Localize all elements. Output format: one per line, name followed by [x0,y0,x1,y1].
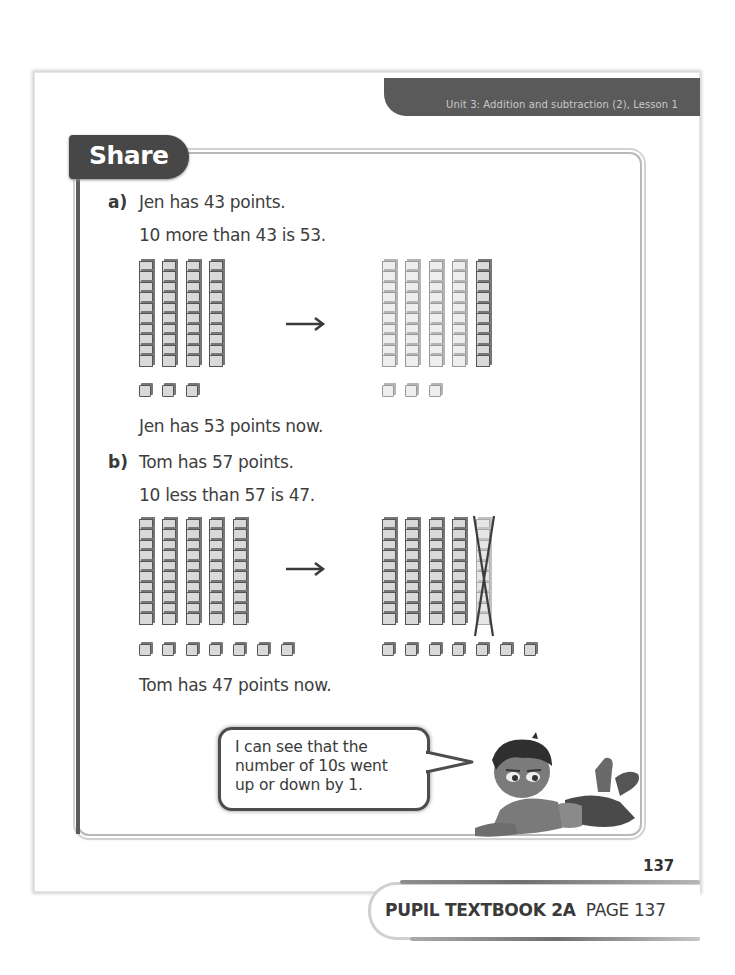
rod-cube [209,355,223,367]
ten-rod [139,520,153,625]
rod-cube [382,355,396,367]
part-a-line1: Jen has 43 points. [139,192,285,212]
one-cube [500,644,512,656]
rod-cube [186,613,200,625]
one-cube [382,644,394,656]
added-ten-rod [476,262,490,367]
ten-rod [209,520,223,625]
one-cube [382,385,394,397]
ten-rod [405,262,419,367]
speech-line-3: up or down by 1. [235,776,427,795]
part-a-label: a) [108,192,127,212]
one-cube [476,644,488,656]
right-arrow-icon [286,561,326,577]
ten-rod [186,262,200,367]
footer-book-title: PUPIL TEXTBOOK 2A [385,900,576,920]
ten-rod [429,520,443,625]
ten-rod [162,520,176,625]
part-b-line1: Tom has 57 points. [139,452,294,472]
rod-cube [162,613,176,625]
one-cube [139,385,151,397]
one-cube [162,385,174,397]
speech-bubble: I can see that the number of 10s went up… [218,727,430,811]
ten-rod [429,262,443,367]
rod-cube [452,355,466,367]
child-character-illustration [470,730,645,842]
rod-cube [452,613,466,625]
rod-cube [209,613,223,625]
one-cube [405,385,417,397]
rod-cube [405,355,419,367]
ten-rod [452,262,466,367]
page-number: 137 [643,857,674,875]
footer-divider-top [400,880,700,884]
one-cube [162,644,174,656]
one-cube [429,385,441,397]
rod-cube [139,355,153,367]
rod-cube [405,613,419,625]
rod-cube [429,355,443,367]
speech-bubble-tail [426,748,476,776]
one-cube [257,644,269,656]
ten-rod [209,262,223,367]
one-cube [452,644,464,656]
ten-rod [139,262,153,367]
cross-out-icon [472,514,496,638]
ten-rod [405,520,419,625]
speech-line-1: I can see that the [235,738,427,757]
part-b-line2: 10 less than 57 is 47. [139,485,315,505]
one-cube [405,644,417,656]
part-a-result: Jen has 53 points now. [139,416,323,436]
rod-cube [382,613,396,625]
speech-line-2: number of 10s went [235,757,427,776]
part-a-line2: 10 more than 43 is 53. [139,225,326,245]
part-b-label: b) [108,452,128,472]
part-b-result: Tom has 47 points now. [139,675,331,695]
one-cube [429,644,441,656]
rod-cube [476,355,490,367]
one-cube [139,644,151,656]
ten-rod [162,262,176,367]
ten-rod [186,520,200,625]
unit-banner: Unit 3: Addition and subtraction (2), Le… [384,78,700,116]
rod-cube [139,613,153,625]
right-arrow-icon [286,316,326,332]
rod-cube [162,355,176,367]
ten-rod [382,520,396,625]
rod-cube [233,613,247,625]
ten-rod [382,262,396,367]
footer-page: PAGE 137 [586,900,666,920]
one-cube [524,644,536,656]
ten-rod [452,520,466,625]
rod-cube [186,355,200,367]
one-cube [209,644,221,656]
section-title-tab: Share [69,135,189,179]
one-cube [233,644,245,656]
one-cube [186,644,198,656]
footer-label: PUPIL TEXTBOOK 2A PAGE 137 [385,900,666,920]
rod-cube [429,613,443,625]
one-cube [281,644,293,656]
footer-divider-bottom [410,937,700,941]
panel-accent-line [76,170,80,834]
ten-rod [233,520,247,625]
one-cube [186,385,198,397]
